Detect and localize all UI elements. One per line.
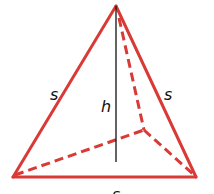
hidden-edge-right <box>144 130 194 175</box>
hidden-edge-left <box>15 130 144 175</box>
label-edge-bottom: s <box>112 185 120 194</box>
label-edge-right: s <box>164 85 172 104</box>
tetrahedron-diagram: s h s s <box>0 0 214 194</box>
edge-left <box>13 6 116 177</box>
edge-right <box>116 6 196 177</box>
hidden-edge-apex <box>119 18 144 130</box>
label-height: h <box>101 97 111 116</box>
label-edge-left: s <box>50 85 58 104</box>
